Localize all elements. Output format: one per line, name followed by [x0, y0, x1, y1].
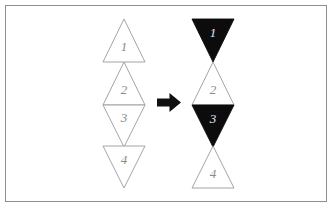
- figure-canvas: 1 2 3 4 1 2 3 4: [0, 0, 334, 209]
- right-arrow-icon: [157, 93, 181, 112]
- right-triangle-3-label: 3: [209, 111, 217, 126]
- figure-container: 1 2 3 4 1 2 3 4: [0, 0, 334, 209]
- right-triangle-1-label: 1: [210, 25, 217, 40]
- left-triangle-4-label: 4: [121, 152, 128, 167]
- left-triangle-1-label: 1: [121, 39, 128, 54]
- right-triangle-4-label: 4: [210, 166, 217, 181]
- right-triangle-stack: 1 2 3 4: [192, 19, 234, 188]
- left-triangle-3-label: 3: [120, 110, 128, 125]
- right-triangle-2-label: 2: [210, 82, 217, 97]
- left-triangle-stack: 1 2 3 4: [103, 19, 145, 188]
- left-triangle-2-label: 2: [121, 82, 128, 97]
